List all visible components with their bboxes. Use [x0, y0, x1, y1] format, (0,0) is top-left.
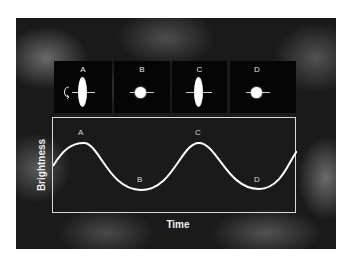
panel-b-label: B	[114, 65, 170, 74]
curve-label-b: B	[137, 175, 142, 184]
panel-d: D	[230, 61, 296, 113]
panel-d-label: D	[230, 65, 284, 74]
panel-a: A	[54, 61, 112, 113]
curve-label-d: D	[254, 175, 260, 184]
y-axis-label: Brightness	[36, 139, 47, 191]
panel-b: B	[114, 61, 170, 113]
x-axis-label: Time	[166, 219, 189, 230]
light-curve-frame	[52, 117, 296, 213]
elongated-asteroid	[194, 77, 203, 107]
light-curve	[53, 118, 297, 214]
round-asteroid	[135, 87, 146, 98]
curve-label-a: A	[78, 128, 83, 137]
round-asteroid	[251, 87, 262, 98]
curve-label-c: C	[195, 128, 201, 137]
panel-a-label: A	[54, 65, 112, 74]
rotation-arrow-icon	[60, 85, 74, 99]
elongated-asteroid	[78, 77, 87, 107]
panel-c-label: C	[172, 65, 227, 74]
panel-c: C	[172, 61, 227, 113]
